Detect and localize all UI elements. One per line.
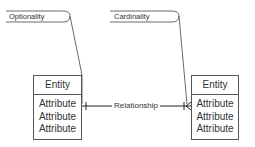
attribute-row: Attribute xyxy=(192,111,238,124)
entity-box-right[interactable]: Entity Attribute Attribute Attribute xyxy=(191,75,239,140)
entity-box-left[interactable]: Entity Attribute Attribute Attribute xyxy=(33,75,82,140)
relationship-label: Relationship xyxy=(112,101,160,110)
cardinality-connector xyxy=(179,16,187,104)
entity-title: Entity xyxy=(34,76,81,95)
attribute-row: Attribute xyxy=(34,98,81,111)
cardinality-label: Cardinality xyxy=(114,12,149,21)
entity-attributes: Attribute Attribute Attribute xyxy=(34,95,81,136)
entity-attributes: Attribute Attribute Attribute xyxy=(192,95,238,136)
attribute-row: Attribute xyxy=(192,123,238,136)
optionality-label: Optionality xyxy=(9,12,44,21)
entity-title: Entity xyxy=(192,76,238,95)
attribute-row: Attribute xyxy=(34,123,81,136)
attribute-row: Attribute xyxy=(34,111,81,124)
attribute-row: Attribute xyxy=(192,98,238,111)
